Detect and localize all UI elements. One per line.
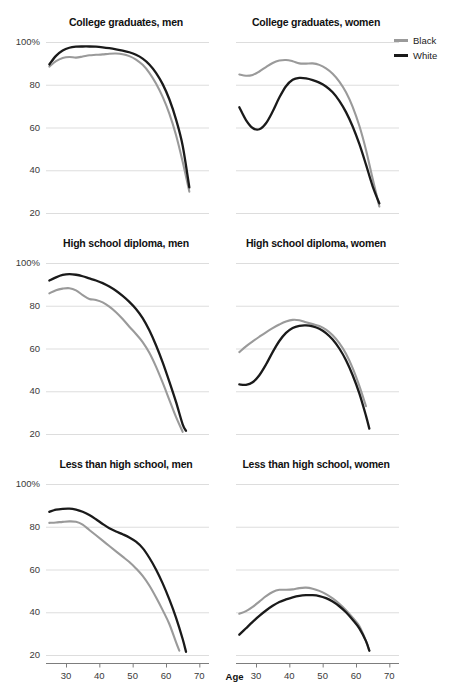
series-line-white: [49, 274, 186, 431]
panel-plot: [46, 42, 216, 243]
y-tick-label: 100%: [0, 36, 40, 47]
series-line-white: [239, 325, 369, 428]
series-line-black: [239, 60, 379, 207]
y-tick-label: 20: [0, 207, 40, 218]
y-tick-label: 80: [0, 300, 40, 311]
legend-item-black[interactable]: Black: [394, 33, 466, 48]
legend-item-white[interactable]: White: [394, 48, 466, 63]
chart-legend: BlackWhite: [394, 33, 466, 63]
legend-label: White: [413, 50, 437, 61]
panel-title: Less than high school, women: [236, 458, 396, 470]
y-tick-label: 80: [0, 79, 40, 90]
series-line-white: [239, 595, 369, 651]
panel-title: Less than high school, men: [46, 458, 206, 470]
series-line-white: [49, 509, 186, 652]
legend-swatch-icon: [394, 39, 408, 42]
panel-plot: [236, 42, 406, 243]
x-axis-title: Age: [0, 671, 469, 682]
y-tick-label: 60: [0, 564, 40, 575]
panel-0: College graduates, men: [46, 16, 206, 253]
y-tick-label: 60: [0, 122, 40, 133]
series-line-black: [49, 521, 179, 650]
series-line-white: [239, 78, 379, 204]
y-tick-label: 40: [0, 164, 40, 175]
legend-swatch-icon: [394, 54, 408, 57]
panel-1: College graduates, women: [236, 16, 396, 253]
panel-title: High school diploma, women: [236, 237, 396, 249]
panel-5: Less than high school, women: [236, 458, 396, 695]
panel-plot: [46, 263, 216, 464]
series-line-white: [49, 46, 189, 187]
y-tick-label: 100%: [0, 478, 40, 489]
chart-figure: College graduates, men20406080100%Colleg…: [0, 0, 469, 696]
series-line-black: [239, 588, 369, 651]
y-tick-label: 20: [0, 649, 40, 660]
y-tick-label: 100%: [0, 257, 40, 268]
panel-4: Less than high school, men: [46, 458, 206, 695]
panel-title: College graduates, men: [46, 16, 206, 28]
panel-plot: [236, 263, 406, 464]
panel-plot: [46, 484, 216, 685]
legend-label: Black: [413, 35, 436, 46]
y-tick-label: 60: [0, 343, 40, 354]
y-tick-label: 80: [0, 521, 40, 532]
panel-plot: [236, 484, 406, 685]
panel-title: College graduates, women: [236, 16, 396, 28]
panel-title: High school diploma, men: [46, 237, 206, 249]
y-tick-label: 40: [0, 606, 40, 617]
panel-3: High school diploma, women: [236, 237, 396, 474]
panel-2: High school diploma, men: [46, 237, 206, 474]
y-tick-label: 40: [0, 385, 40, 396]
y-tick-label: 20: [0, 428, 40, 439]
